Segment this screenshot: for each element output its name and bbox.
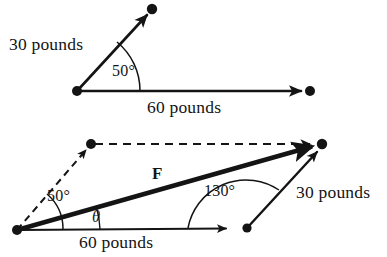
- upper-diagram-group: [72, 4, 315, 96]
- lower-force-60-label: 60 pounds: [79, 234, 153, 252]
- lower-resultant-tip-dot: [317, 139, 327, 149]
- lower-origin-dot: [12, 225, 22, 235]
- upper-force-30-label: 30 pounds: [9, 36, 83, 54]
- upper-origin-dot: [72, 86, 82, 96]
- upper-angle-50-label: 50°: [112, 63, 135, 79]
- lower-force-60-base-vector: [17, 229, 226, 231]
- upper-force-30-vector: [77, 15, 147, 91]
- lower-angle-50-label: 50°: [47, 188, 70, 204]
- lower-dashed-left-node-dot: [86, 139, 96, 149]
- lower-angle-theta-label: θ: [92, 209, 100, 226]
- lower-angle-130-label: 130°: [204, 183, 235, 199]
- upper-force-60-label: 60 pounds: [147, 99, 221, 117]
- upper-force-60-endpoint-dot: [305, 86, 315, 96]
- force-diagram-figure: 30 pounds 50° 60 pounds 50° F 130° 30 po…: [0, 0, 387, 257]
- lower-resultant-F-label: F: [152, 165, 163, 182]
- upper-force-30-endpoint-dot: [147, 4, 157, 14]
- lower-force-30-label: 30 pounds: [296, 184, 370, 202]
